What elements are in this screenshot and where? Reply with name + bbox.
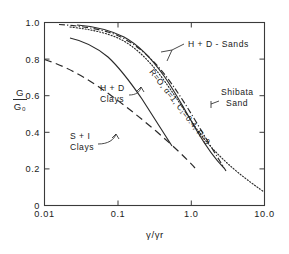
ytick-label-0-4: 0.4 [25, 128, 40, 138]
x-tick-labels: 0.01 0.1 1.0 10.0 [34, 209, 274, 219]
annotation-hd-sands: H + D - Sands [188, 39, 249, 49]
chart-canvas: 1.0 0.8 0.6 0.4 0.2 0 0.01 0.1 1.0 10.0 … [0, 0, 289, 254]
annotation-parameters-text: R=O, α=1, C₁=0.4, R=3 [147, 68, 212, 147]
y-axis-title-numerator: G [16, 87, 24, 98]
ytick-label-1-0: 1.0 [25, 18, 40, 28]
annotation-shibata-sand: Shibata Sand [221, 87, 254, 108]
annotation-shibata-sand-line2: Sand [226, 98, 248, 108]
leader-hd-sands [161, 44, 184, 61]
ytick-label-0-8: 0.8 [25, 55, 40, 65]
y-axis-title-denominator: G₀ [14, 101, 27, 112]
annotation-hd-clays-line2: Clays [100, 94, 124, 104]
plot-frame [45, 23, 265, 206]
curve-si-clays [45, 60, 196, 169]
chart-figure: 1.0 0.8 0.6 0.4 0.2 0 0.01 0.1 1.0 10.0 … [0, 0, 289, 254]
xtick-label-0-01: 0.01 [34, 209, 54, 219]
curve-shibata-sand [70, 27, 264, 192]
annotation-si-clays-line2: Clays [70, 142, 94, 152]
xtick-label-1-0: 1.0 [184, 209, 199, 219]
curves-group [45, 25, 265, 193]
annotation-si-clays: S + I Clays [70, 131, 94, 152]
annotation-hd-clays-line1: H + D [100, 83, 125, 93]
x-axis-ticks [45, 23, 265, 206]
leader-si-clays [98, 134, 119, 144]
plot-border [45, 23, 265, 206]
x-axis-title: γ/γr [146, 229, 164, 240]
annotation-si-clays-line1: S + I [70, 131, 90, 141]
y-tick-labels: 1.0 0.8 0.6 0.4 0.2 0 [25, 18, 40, 211]
annotation-parameters: R=O, α=1, C₁=0.4, R=3 [147, 68, 212, 147]
xtick-label-0-1: 0.1 [111, 209, 126, 219]
ytick-label-0-2: 0.2 [25, 164, 40, 174]
xtick-label-10-0: 10.0 [254, 209, 274, 219]
leader-shibata-sand [211, 101, 219, 108]
annotation-hd-clays: H + D Clays [100, 83, 125, 104]
annotation-shibata-sand-line1: Shibata [221, 87, 254, 97]
annotation-hd-sands-text: H + D - Sands [188, 39, 249, 49]
ytick-label-0-6: 0.6 [25, 91, 40, 101]
